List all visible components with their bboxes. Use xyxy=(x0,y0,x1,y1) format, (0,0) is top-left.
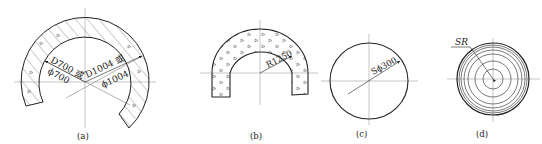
caption-d: (d) xyxy=(476,129,488,139)
figure-a: D700 或 ϕ700 D1004 或 ϕ1004 (a) xyxy=(14,8,156,141)
dim-diameter-c: Sϕ300 xyxy=(369,55,398,77)
dim-radius-d: SR xyxy=(455,37,468,47)
figure-b: R1250 (b) xyxy=(200,20,318,141)
figure-d: SR (d) xyxy=(447,37,540,139)
caption-b: (b) xyxy=(250,131,262,141)
caption-a: (a) xyxy=(77,131,89,141)
caption-c: (c) xyxy=(356,129,367,139)
figure-c: Sϕ300 (c) xyxy=(321,34,418,139)
drawing-canvas: D700 或 ϕ700 D1004 或 ϕ1004 (a) R1250 (b) … xyxy=(0,0,542,144)
